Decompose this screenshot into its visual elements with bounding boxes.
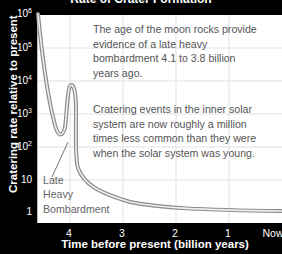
plot-left-edge [37, 15, 38, 223]
annotation-line: times less common than they were [93, 131, 256, 146]
chart-title: Rate of Crater Formation [0, 0, 282, 6]
annotation-line: Cratering events in the inner solar [93, 102, 256, 117]
x-tick-2: 2 [172, 227, 178, 239]
y-tick-10: 10 [21, 174, 32, 185]
x-tick-now: Now [262, 227, 282, 239]
crater-rate-chart: Rate of Crater Formation Cratering rate … [0, 0, 282, 254]
annotation-line: evidence of a late heavy [93, 37, 257, 52]
annotation-line: years ago. [93, 66, 257, 81]
x-tick-1: 1 [225, 227, 231, 239]
y-tick-1e3: 103 [17, 108, 32, 119]
annotation-line: Heavy [43, 187, 110, 201]
y-tick-1e6: 106 [17, 8, 32, 19]
annotation-line: bombardment 4.1 to 3.8 billion [93, 51, 257, 66]
x-tick-4: 4 [66, 227, 72, 239]
annotation-moon-rocks: The age of the moon rocks provide eviden… [93, 22, 257, 80]
annotation-late-heavy-bombardment: Late Heavy Bombardment [43, 173, 110, 216]
annotation-line: when the solar system was young. [93, 146, 256, 161]
annotation-cratering-events: Cratering events in the inner solar syst… [93, 102, 256, 160]
y-tick-1e4: 104 [17, 75, 32, 86]
y-tick-1e2: 102 [17, 141, 32, 152]
annotation-line: Bombardment [43, 202, 110, 216]
annotation-line: system are now roughly a million [93, 117, 256, 132]
x-tick-3: 3 [119, 227, 125, 239]
annotation-line: Late [43, 173, 110, 187]
x-axis-label: Time before present (billion years) [55, 238, 255, 250]
annotation-line: The age of the moon rocks provide [93, 22, 257, 37]
y-tick-1e5: 105 [17, 42, 32, 53]
y-tick-1: 1 [26, 206, 32, 217]
